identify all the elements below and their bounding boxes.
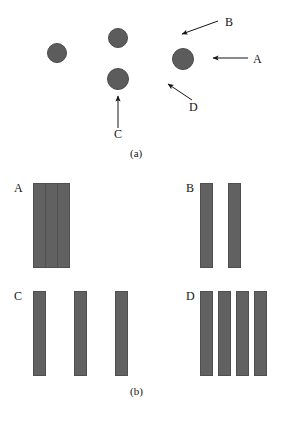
bar <box>115 291 128 376</box>
bar <box>254 291 267 376</box>
subfigure-caption: (a) <box>130 148 142 159</box>
bar <box>57 183 70 268</box>
bar <box>74 291 87 376</box>
bar <box>200 291 213 376</box>
bar-group-label-b: B <box>186 182 194 194</box>
bar <box>200 183 213 268</box>
callout-arrow-b <box>182 21 218 34</box>
circle-left <box>47 43 67 63</box>
bar-group-label-c: C <box>14 290 22 302</box>
callout-label-d: D <box>189 101 198 113</box>
figure-root: BADC ABCD (a)(b) <box>0 0 293 421</box>
circle-right <box>172 48 194 70</box>
bar <box>218 291 231 376</box>
callout-label-a: A <box>253 53 262 65</box>
bar-group-label-a: A <box>14 182 23 194</box>
callout-label-b: B <box>225 16 233 28</box>
callout-arrow-d <box>168 84 192 100</box>
subfigure-caption: (b) <box>130 386 143 397</box>
bar <box>228 183 241 268</box>
callout-label-c: C <box>114 128 122 140</box>
circle-bottom-middle <box>107 68 129 90</box>
circle-top-middle <box>108 28 128 48</box>
bar <box>236 291 249 376</box>
bar <box>33 291 46 376</box>
bar-group-label-d: D <box>186 290 195 302</box>
